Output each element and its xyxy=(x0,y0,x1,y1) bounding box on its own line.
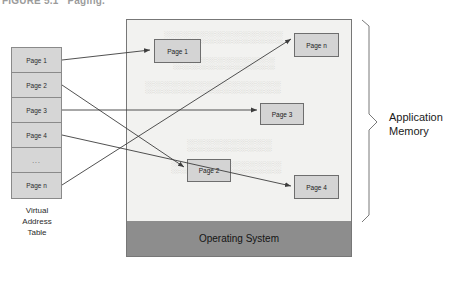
scan-bleed-artifact: ░░░░░░░░░░ xyxy=(187,138,272,152)
operating-system-label: Operating System xyxy=(199,233,279,244)
vat-label-line-1: Virtual xyxy=(4,205,70,216)
scan-bleed-artifact: ░░░░░░░░░░░░░░░░ xyxy=(145,80,281,94)
memory-page-box-2[interactable]: Page 2 xyxy=(187,159,231,182)
memory-page-box-n[interactable]: Page n xyxy=(294,33,339,57)
vat-cell-page-4[interactable]: Page 4 xyxy=(12,123,61,148)
memory-page-label: Page 1 xyxy=(167,48,188,55)
vat-cell-label: Page n xyxy=(26,182,47,189)
memory-page-label: Page n xyxy=(306,42,327,49)
vat-cell-label: Page 4 xyxy=(26,132,47,139)
memory-page-label: Page 2 xyxy=(199,167,220,174)
vat-label-line-2: Address xyxy=(4,216,70,227)
operating-system-bar: Operating System xyxy=(127,221,351,256)
vat-cell-label: Page 1 xyxy=(26,57,47,64)
vat-cell-page-3[interactable]: Page 3 xyxy=(12,98,61,123)
application-memory-block: ░░░░░░░░░░░░░░ ░░░░░░░░░░░░ ░░░░░░░░░░░░… xyxy=(126,19,352,257)
memory-page-label: Page 3 xyxy=(272,111,293,118)
application-memory-label: Application Memory xyxy=(389,110,443,138)
memory-page-box-1[interactable]: Page 1 xyxy=(154,39,201,63)
virtual-address-table: Page 1 Page 2 Page 3 Page 4 ... Page n xyxy=(11,47,62,199)
vat-cell-page-n[interactable]: Page n xyxy=(12,173,61,198)
figure-caption-title: Paging. xyxy=(67,0,105,6)
memory-page-box-4[interactable]: Page 4 xyxy=(294,175,339,199)
memory-page-label: Page 4 xyxy=(306,184,327,191)
vat-cell-ellipsis: ... xyxy=(12,148,61,173)
vat-cell-page-1[interactable]: Page 1 xyxy=(12,48,61,73)
figure-caption: FIGURE 5.1Paging. xyxy=(2,0,105,6)
brace-path xyxy=(362,20,377,222)
figure-caption-number: FIGURE 5.1 xyxy=(2,0,58,6)
memory-page-box-3[interactable]: Page 3 xyxy=(260,103,304,125)
vat-label-line-3: Table xyxy=(4,227,70,238)
application-memory-label-line-2: Memory xyxy=(389,124,443,138)
vat-cell-label: ... xyxy=(32,157,40,164)
virtual-address-table-label: Virtual Address Table xyxy=(4,205,70,238)
vat-cell-page-2[interactable]: Page 2 xyxy=(12,73,61,98)
vat-cell-label: Page 3 xyxy=(26,107,47,114)
vat-cell-label: Page 2 xyxy=(26,82,47,89)
application-memory-label-line-1: Application xyxy=(389,110,443,124)
